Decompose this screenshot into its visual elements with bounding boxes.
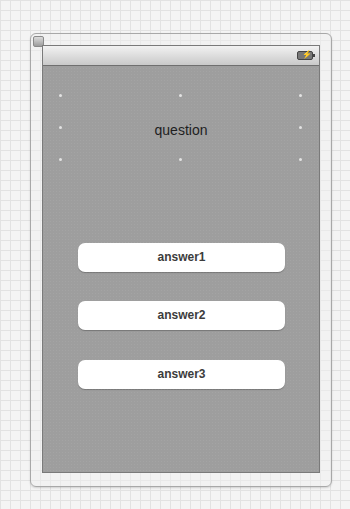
charging-bolt-icon: ⚡ (302, 50, 312, 60)
resize-handle-top-center[interactable] (179, 94, 182, 97)
resize-handle-bottom-center[interactable] (179, 158, 182, 161)
answer3-button[interactable]: answer3 (78, 360, 285, 389)
view-controller-screen: ⚡ question answer1 answer2 answer3 (42, 45, 320, 473)
resize-handle-top-right[interactable] (299, 94, 302, 97)
battery-icon: ⚡ (297, 51, 313, 60)
question-label[interactable]: question (43, 122, 319, 138)
resize-handle-bottom-right[interactable] (299, 158, 302, 161)
answer2-button[interactable]: answer2 (78, 301, 285, 330)
resize-handle-top-left[interactable] (59, 94, 62, 97)
answer1-button[interactable]: answer1 (78, 243, 285, 272)
resize-handle-bottom-left[interactable] (59, 158, 62, 161)
status-bar: ⚡ (43, 46, 319, 66)
